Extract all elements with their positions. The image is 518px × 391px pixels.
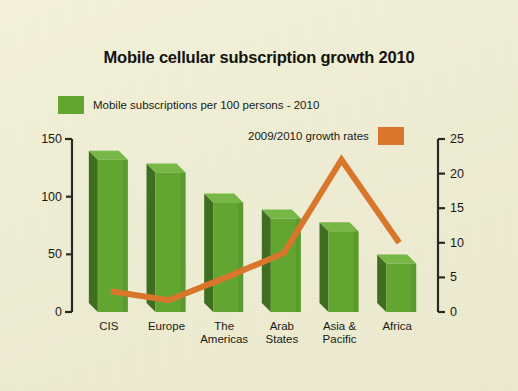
- x-axis-category-1: Europe: [148, 320, 185, 333]
- y-axis-left-tick-100: 100: [22, 190, 62, 204]
- x-axis-category-2: The Americas: [200, 320, 248, 346]
- x-axis-category-0: CIS: [99, 320, 118, 333]
- y-axis-left-tick-150: 150: [22, 132, 62, 146]
- x-axis-category-3: Arab States: [266, 320, 299, 346]
- y-axis-right-tick-25: 25: [450, 132, 464, 146]
- y-axis-left-tick-50: 50: [22, 247, 62, 261]
- x-axis-category-4: Asia & Pacific: [323, 320, 357, 346]
- x-axis-category-5: Africa: [382, 320, 411, 333]
- y-axis-right-tick-10: 10: [450, 236, 464, 250]
- chart-figure: Mobile cellular subscription growth 2010…: [0, 0, 518, 391]
- y-axis-right-tick-0: 0: [450, 305, 457, 319]
- y-axis-left-tick-0: 0: [22, 305, 62, 319]
- y-axis-right-tick-20: 20: [450, 167, 464, 181]
- y-axis-right-tick-15: 15: [450, 201, 464, 215]
- axis-text-layer: 1501005002520151050CISEuropeThe Americas…: [0, 0, 518, 391]
- y-axis-right-tick-5: 5: [450, 270, 457, 284]
